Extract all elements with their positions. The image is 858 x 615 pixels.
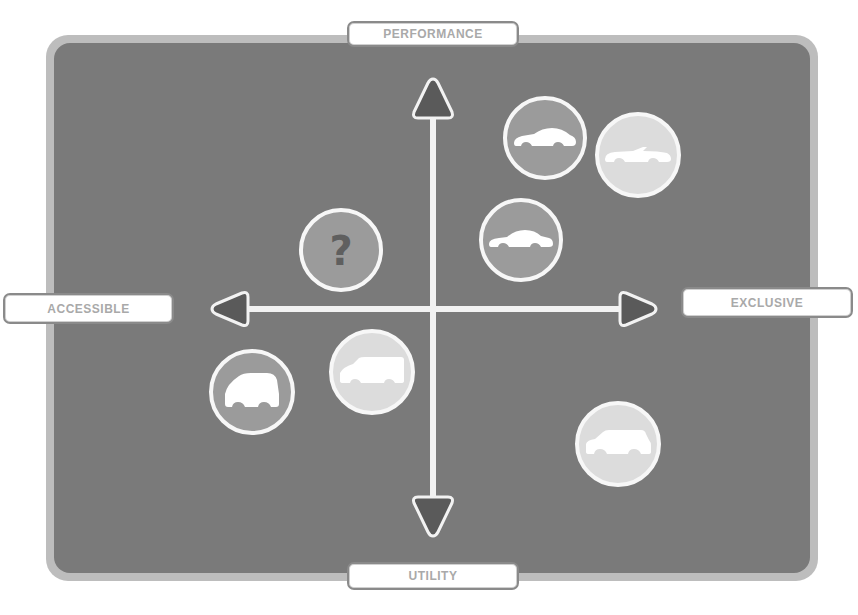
item-convertible [595, 112, 681, 198]
item-unknown: ? [299, 208, 383, 292]
suv-icon [583, 428, 653, 460]
small-hatchback-icon [221, 370, 283, 414]
axis-label-utility: UTILITY [347, 562, 519, 590]
mpv-van-icon [337, 355, 407, 389]
item-mpv [329, 329, 415, 415]
convertible-icon [603, 143, 673, 167]
arrow-right-icon [620, 293, 656, 326]
axis-label-exclusive: EXCLUSIVE [681, 287, 853, 318]
sports-coupe-icon [512, 123, 578, 153]
sedan-icon [487, 227, 555, 253]
arrow-left-icon [212, 293, 248, 326]
axis-label-performance: PERFORMANCE [347, 21, 519, 47]
item-coupe [503, 96, 587, 180]
arrow-down-icon [414, 497, 453, 536]
axis-label-accessible: ACCESSIBLE [3, 293, 174, 324]
item-suv [575, 401, 661, 487]
item-sedan [479, 198, 563, 282]
item-hatchback [209, 349, 295, 435]
question-mark-icon: ? [329, 231, 352, 271]
arrow-up-icon [414, 79, 453, 118]
